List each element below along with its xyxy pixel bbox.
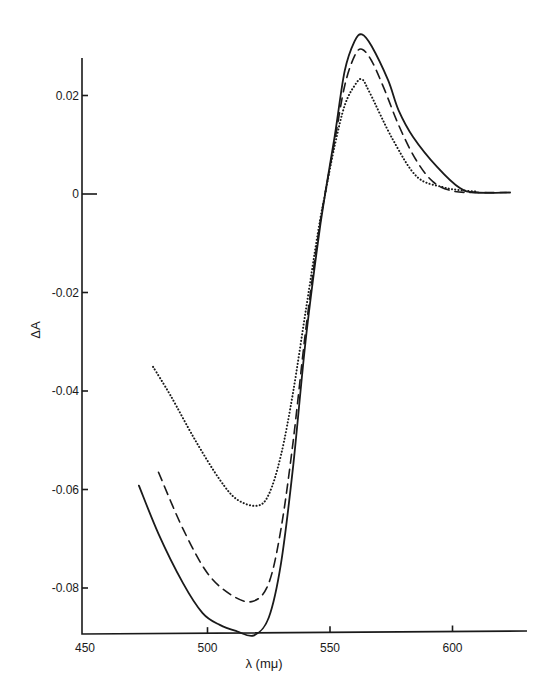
x-tick-label: 600 [442, 641, 462, 655]
x-axis-ticks: 450500550600 [75, 626, 463, 655]
y-axis-title: ΔA [28, 321, 43, 339]
curve-solid [139, 34, 510, 636]
difference-spectrum-chart: 0.020-0.02-0.04-0.06-0.08 450500550600 Δ… [0, 0, 553, 699]
x-axis-title: λ (mμ) [245, 656, 282, 671]
curve-dotted [153, 79, 477, 506]
y-tick-label: -0.04 [52, 384, 80, 398]
y-tick-label: -0.02 [52, 286, 80, 300]
y-tick-label: -0.06 [52, 483, 80, 497]
data-curves [139, 34, 510, 636]
y-tick-label: 0.02 [56, 89, 80, 103]
x-tick-label: 450 [75, 641, 95, 655]
y-axis-ticks: 0.020-0.02-0.04-0.06-0.08 [52, 89, 97, 596]
curve-dashed [159, 49, 507, 602]
x-tick-label: 550 [320, 641, 340, 655]
x-tick-label: 500 [197, 641, 217, 655]
y-tick-label: -0.08 [52, 581, 80, 595]
y-tick-label: 0 [72, 187, 79, 201]
